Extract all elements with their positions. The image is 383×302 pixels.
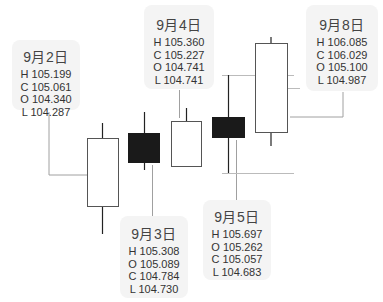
callout-close: C 105.227 — [144, 49, 214, 62]
connector-sep8 — [290, 92, 343, 117]
callout-high: H 105.199 — [12, 68, 80, 81]
callout-close: C 106.029 — [306, 49, 378, 62]
callout-sep2: 9月2日 H 105.199 C 105.061 O 104.340 L 104… — [12, 40, 80, 110]
callout-sep8: 9月8日 H 106.085 C 106.029 O 105.100 L 104… — [306, 5, 378, 91]
callout-low: L 104.730 — [120, 283, 188, 296]
candle-sep3 — [128, 112, 160, 170]
connector-sep2 — [49, 112, 87, 175]
callout-high: H 105.360 — [144, 36, 214, 49]
callout-low: L 104.287 — [12, 106, 80, 119]
callout-open: O 105.089 — [120, 258, 188, 271]
callout-high: H 105.308 — [120, 245, 188, 258]
candle-sep2 — [88, 123, 119, 234]
callout-close: C 104.784 — [120, 270, 188, 283]
callout-low: L 104.683 — [203, 266, 271, 279]
callout-low: L 104.741 — [144, 74, 214, 87]
callout-date: 9月5日 — [203, 206, 271, 226]
callout-sep5: 9月5日 H 105.697 O 105.262 C 105.057 L 104… — [203, 200, 271, 280]
callout-high: H 106.085 — [306, 36, 378, 49]
candle-sep4 — [172, 108, 202, 167]
candle-sep5 — [212, 75, 245, 173]
callout-open: O 104.340 — [12, 93, 80, 106]
callout-date: 9月2日 — [12, 46, 80, 66]
callout-sep4: 9月4日 H 105.360 C 105.227 O 104.741 L 104… — [144, 5, 214, 89]
callout-date: 9月8日 — [306, 14, 378, 34]
callout-date: 9月4日 — [144, 14, 214, 34]
callout-open: O 105.100 — [306, 61, 378, 74]
callout-open: O 104.741 — [144, 61, 214, 74]
callout-close: C 105.057 — [203, 253, 271, 266]
callout-open: O 105.262 — [203, 241, 271, 254]
callout-high: H 105.697 — [203, 228, 271, 241]
callout-low: L 104.987 — [306, 74, 378, 87]
callout-close: C 105.061 — [12, 81, 80, 94]
callout-sep3: 9月3日 H 105.308 O 105.089 C 104.784 L 104… — [120, 216, 188, 298]
candle-sep8 — [256, 37, 288, 146]
callout-date: 9月3日 — [120, 223, 188, 243]
